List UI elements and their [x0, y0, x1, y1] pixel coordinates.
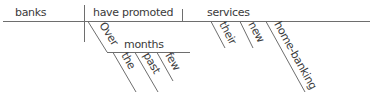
- subject-word: banks: [15, 6, 47, 19]
- direct-object-word: services: [207, 6, 250, 19]
- preposition-word: Over: [96, 20, 121, 49]
- verb-word: have promoted: [93, 6, 173, 19]
- modifier-new: new: [245, 19, 267, 45]
- modifier-few: few: [162, 50, 183, 73]
- modifier-home-banking: home-banking: [271, 19, 319, 91]
- modifier-past: past: [140, 50, 163, 77]
- modifier-their: their: [216, 19, 239, 47]
- sentence-diagram: banks have promoted services Over months…: [0, 0, 377, 100]
